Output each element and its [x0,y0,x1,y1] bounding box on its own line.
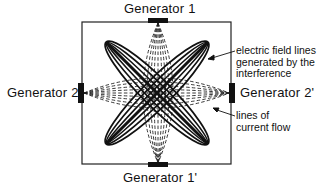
current-flow-pointer-arrow [213,108,235,116]
generator-1-prime-label: Generator 1' [123,170,197,185]
generator-2-prime-electrode [229,83,235,103]
current-flow-annotation: lines of current flow [236,110,290,133]
generator-1-electrode [148,18,168,23]
generator-2-prime-label: Generator 2' [240,85,314,100]
generator-2-label: Generator 2 [7,85,79,100]
field-lines-annotation: electric field lines generated by the in… [236,45,316,80]
diagram-canvas: Generator 1 Generator 1' Generator 2 Gen… [0,0,318,189]
generator-1-label: Generator 1 [124,1,196,16]
generator-1-prime-electrode [148,162,168,167]
field-lines-annotation-line3: interference [236,68,316,80]
field-lines-annotation-line1: electric field lines [236,45,316,57]
generator-2-electrode [78,83,84,103]
current-flow-annotation-line2: current flow [236,122,290,134]
current-flow-annotation-line1: lines of [236,110,290,122]
